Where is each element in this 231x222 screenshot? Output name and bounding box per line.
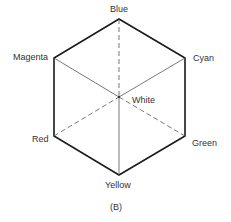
label-green: Green bbox=[192, 138, 217, 148]
label-white: White bbox=[132, 95, 155, 105]
edge-red-white bbox=[54, 97, 119, 136]
label-cyan: Cyan bbox=[193, 53, 214, 63]
label-blue: Blue bbox=[110, 4, 128, 14]
label-red: Red bbox=[32, 134, 49, 144]
edge-cyan-white bbox=[119, 58, 185, 97]
label-magenta: Magenta bbox=[13, 52, 48, 62]
figure-caption: (B) bbox=[110, 202, 122, 212]
label-yellow: Yellow bbox=[105, 180, 131, 190]
edge-magenta-white bbox=[54, 58, 119, 97]
white-point bbox=[118, 96, 120, 98]
